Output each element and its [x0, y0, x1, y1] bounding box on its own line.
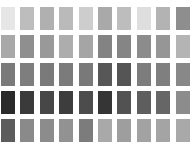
gray-swatch — [98, 119, 112, 142]
gray-swatch — [137, 91, 151, 114]
swatch-row — [1, 7, 196, 30]
gray-swatch — [79, 63, 93, 86]
gray-swatch — [176, 7, 190, 30]
gray-swatch — [137, 35, 151, 58]
gray-swatch — [79, 119, 93, 142]
gray-swatch — [40, 91, 54, 114]
gray-swatch — [1, 91, 15, 114]
gray-swatch — [40, 63, 54, 86]
gray-swatch — [1, 35, 15, 58]
gray-swatch — [137, 7, 151, 30]
swatch-row — [1, 119, 196, 142]
gray-swatch — [156, 91, 170, 114]
gray-swatch — [79, 35, 93, 58]
gray-swatch — [98, 91, 112, 114]
gray-swatch — [176, 119, 190, 142]
gray-swatch — [59, 119, 73, 142]
gray-swatch — [20, 63, 34, 86]
gray-swatch — [176, 35, 190, 58]
swatch-row — [1, 91, 196, 114]
swatch-row — [1, 35, 196, 58]
gray-swatch — [40, 35, 54, 58]
gray-swatch — [117, 119, 131, 142]
gray-swatch — [176, 63, 190, 86]
gray-swatch — [117, 7, 131, 30]
gray-swatch — [40, 7, 54, 30]
gray-swatch — [1, 63, 15, 86]
swatch-row — [1, 63, 196, 86]
gray-swatch — [1, 7, 15, 30]
gray-swatch — [20, 119, 34, 142]
gray-swatch — [59, 7, 73, 30]
gray-swatch — [156, 63, 170, 86]
gray-swatch — [79, 7, 93, 30]
gray-swatch — [117, 91, 131, 114]
gray-swatch — [79, 91, 93, 114]
gray-swatch — [117, 35, 131, 58]
gray-swatch — [98, 35, 112, 58]
gray-swatch — [40, 119, 54, 142]
gray-swatch — [156, 7, 170, 30]
gray-swatch — [156, 119, 170, 142]
gray-swatch — [20, 91, 34, 114]
gray-swatch — [117, 63, 131, 86]
gray-swatch — [59, 63, 73, 86]
gray-swatch — [137, 63, 151, 86]
gray-swatch — [59, 91, 73, 114]
gray-swatch — [176, 91, 190, 114]
gray-swatch — [59, 35, 73, 58]
gray-swatch — [20, 7, 34, 30]
gray-swatch — [98, 7, 112, 30]
gray-swatch — [156, 35, 170, 58]
gray-swatch — [98, 63, 112, 86]
gray-swatch — [20, 35, 34, 58]
gray-swatch — [137, 119, 151, 142]
gray-swatch — [1, 119, 15, 142]
